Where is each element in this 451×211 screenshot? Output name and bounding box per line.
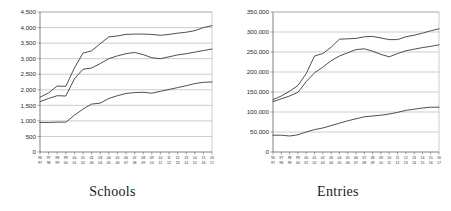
schools-plot-svg: 05001,0001,5002,0002,5003,0003,5004,0004… [0, 0, 225, 182]
entries-xtick: 06 [346, 161, 350, 165]
schools-xtick: 16 [201, 161, 205, 165]
schools-xtick: 07 [133, 156, 137, 160]
schools-xtick: 14 [193, 156, 197, 160]
schools-xtick: 15 [193, 161, 197, 165]
schools-series-lower [40, 82, 212, 122]
entries-xtick: 02 [313, 161, 317, 165]
schools-xtick: 12 [167, 161, 171, 165]
entries-xtick: 12 [396, 161, 400, 165]
schools-ytick-labels: 05001,0001,5002,0002,5003,0003,5004,0004… [21, 8, 37, 155]
schools-ytick: 500 [26, 133, 37, 140]
chart-title-entries: Entries [225, 184, 451, 200]
schools-ytick: 3,500 [21, 39, 37, 46]
schools-xtick: 13 [184, 156, 188, 160]
entries-xtick: 12 [404, 156, 408, 160]
plot-area-entries: 050,000100,000150,000200,000250,000300,0… [225, 0, 451, 182]
entries-xtick: 05 [346, 156, 350, 160]
entries-series-middle [273, 45, 439, 102]
schools-xtick: 11 [159, 161, 163, 165]
schools-xtick: 01 [72, 161, 76, 165]
entries-xtick: 04 [329, 161, 333, 165]
schools-xtick: 14 [184, 161, 188, 165]
schools-xtick: 17 [210, 161, 214, 165]
schools-xtick: 04 [107, 156, 111, 160]
schools-xtick: 07 [124, 161, 128, 165]
entries-xtick: 97 [279, 156, 283, 160]
schools-xtick: 05 [107, 161, 111, 165]
schools-xtick: 08 [141, 156, 145, 160]
entries-xtick: 96 [271, 156, 275, 160]
chart-panel-schools: 05001,0001,5002,0002,5003,0003,5004,0004… [0, 0, 225, 211]
entries-xtick: 98 [279, 161, 283, 165]
schools-xtick: 04 [98, 161, 102, 165]
schools-xtick: 10 [158, 156, 162, 160]
schools-xtick: 06 [124, 156, 128, 160]
entries-ytick: 150,000 [247, 88, 270, 95]
schools-xtick: 02 [81, 161, 85, 165]
entries-xtick: 03 [321, 161, 325, 165]
entries-xtick: 01 [313, 156, 317, 160]
entries-xtick: 11 [387, 161, 391, 165]
entries-series-lines [273, 29, 439, 136]
entries-xtick: 06 [354, 156, 358, 160]
entries-xtick: 16 [429, 161, 433, 165]
schools-xtick-labels: 9697979898999900000101020203030404050506… [38, 156, 214, 165]
entries-xtick: 16 [437, 156, 441, 160]
schools-ytick: 4,000 [21, 24, 37, 31]
entries-xtick: 14 [420, 156, 424, 160]
entries-xtick: 04 [337, 156, 341, 160]
schools-xtick: 10 [150, 161, 154, 165]
entries-xtick: 09 [379, 156, 383, 160]
schools-xtick: 97 [47, 156, 51, 160]
schools-xtick: 98 [55, 156, 59, 160]
schools-xtick: 13 [176, 161, 180, 165]
schools-xtick: 06 [115, 161, 119, 165]
entries-xtick: 05 [337, 161, 341, 165]
entries-ytick-labels: 050,000100,000150,000200,000250,000300,0… [247, 8, 270, 155]
schools-xtick: 15 [201, 156, 205, 160]
entries-xtick: 14 [412, 161, 416, 165]
schools-xtick: 98 [47, 161, 51, 165]
schools-ytick: 3,000 [21, 55, 37, 62]
chart-title-schools: Schools [0, 184, 225, 200]
entries-ytick: 250,000 [247, 48, 270, 55]
entries-xtick: 07 [362, 156, 366, 160]
entries-xtick-labels: 9697979898999900000101020203030404050506… [271, 156, 441, 165]
entries-plot-svg: 050,000100,000150,000200,000250,000300,0… [225, 0, 451, 182]
entries-xtick: 07 [354, 161, 358, 165]
schools-xtick: 03 [98, 156, 102, 160]
entries-xtick: 02 [321, 156, 325, 160]
entries-xtick: 00 [296, 161, 300, 165]
schools-xtick: 11 [167, 156, 171, 160]
entries-xtick: 17 [437, 161, 441, 165]
entries-xtick: 00 [304, 156, 308, 160]
entries-xtick: 99 [288, 161, 292, 165]
schools-series-upper [40, 26, 212, 98]
entries-xtick: 10 [379, 161, 383, 165]
entries-ytick: 300,000 [247, 28, 270, 35]
entries-ytick: 350,000 [247, 8, 270, 15]
schools-ytick: 4,500 [21, 8, 37, 15]
schools-xtick: 03 [90, 161, 94, 165]
schools-xtick: 05 [115, 156, 119, 160]
schools-xtick: 97 [38, 161, 42, 165]
schools-xtick: 00 [64, 161, 68, 165]
schools-xtick: 99 [64, 156, 68, 160]
entries-xtick: 10 [387, 156, 391, 160]
entries-xtick: 15 [429, 156, 433, 160]
schools-xtick: 16 [210, 156, 214, 160]
entries-series-upper [273, 29, 439, 100]
two-panel-line-chart-figure: 05001,0001,5002,0002,5003,0003,5004,0004… [0, 0, 451, 211]
entries-xtick: 15 [420, 161, 424, 165]
chart-panel-entries: 050,000100,000150,000200,000250,000300,0… [225, 0, 451, 211]
schools-ytick: 1,000 [21, 117, 37, 124]
schools-xtick: 96 [38, 156, 42, 160]
schools-xtick: 09 [141, 161, 145, 165]
schools-ytick: 2,500 [21, 70, 37, 77]
schools-xtick: 01 [81, 156, 85, 160]
schools-ytick: 1,500 [21, 102, 37, 109]
entries-xtick: 97 [271, 161, 275, 165]
entries-gridlines [271, 12, 440, 155]
entries-xtick: 98 [288, 156, 292, 160]
schools-xtick: 00 [72, 156, 76, 160]
